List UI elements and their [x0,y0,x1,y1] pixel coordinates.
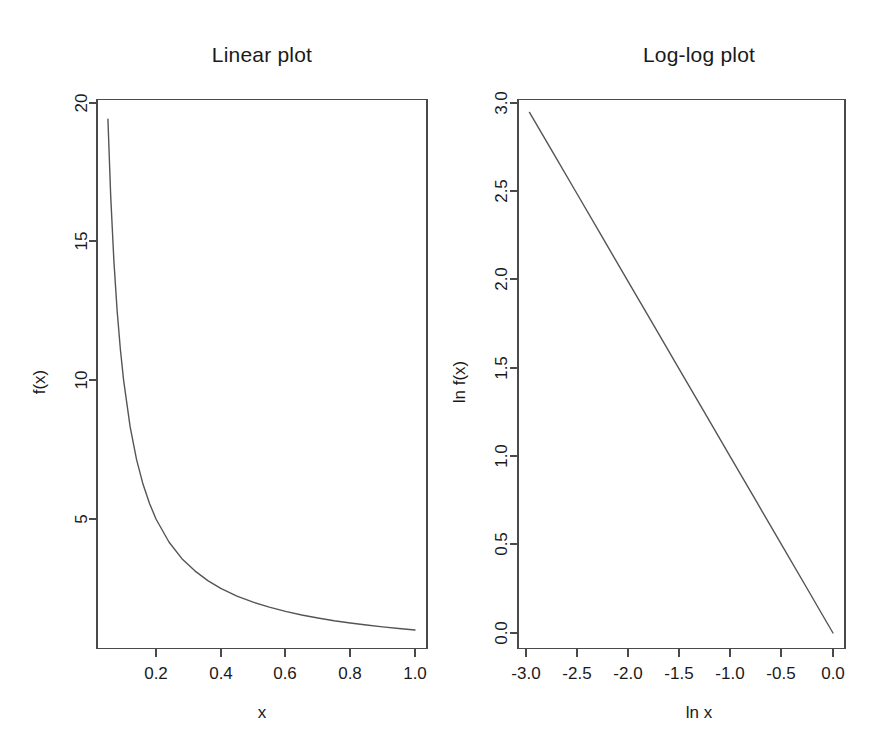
right-y-label-2-5: 2.5 [492,179,511,203]
right-x-label-0-0: 0.0 [821,664,845,683]
right-x-label-neg1-0: -1.0 [715,664,744,683]
right-x-axis-title: ln x [686,703,713,722]
figure-canvas: Linear plot 20 15 10 5 [0,0,887,749]
left-plot-title: Linear plot [212,43,312,66]
left-x-label-0-8: 0.8 [338,664,362,683]
right-y-label-3-0: 3.0 [492,91,511,115]
right-y-label-2-0: 2.0 [492,267,511,291]
left-x-label-0-6: 0.6 [273,664,297,683]
canvas-background [0,0,887,749]
right-x-label-neg2-5: -2.5 [562,664,591,683]
left-x-label-0-4: 0.4 [209,664,233,683]
right-y-label-1-0: 1.0 [492,444,511,468]
right-y-label-0-0: 0.0 [492,621,511,645]
right-x-label-neg0-5: -0.5 [766,664,795,683]
left-y-label-5: 5 [72,514,91,523]
right-plot-title: Log-log plot [643,43,755,66]
right-x-label-neg3-0: -3.0 [511,664,540,683]
left-y-label-15: 15 [72,232,91,251]
left-y-label-10: 10 [72,371,91,390]
right-x-label-neg1-5: -1.5 [664,664,693,683]
plot-svg: Linear plot 20 15 10 5 [0,0,887,749]
left-x-label-1-0: 1.0 [403,664,427,683]
right-x-tick-labels: -3.0 -2.5 -2.0 -1.5 -1.0 -0.5 0.0 [511,664,844,683]
right-y-label-1-5: 1.5 [492,356,511,380]
right-y-label-0-5: 0.5 [492,532,511,556]
left-x-label-0-2: 0.2 [144,664,168,683]
left-y-label-20: 20 [72,94,91,113]
right-x-label-neg2-0: -2.0 [613,664,642,683]
left-y-axis-title: f(x) [30,370,49,395]
left-x-axis-title: x [258,703,267,722]
right-y-axis-title: ln f(x) [450,361,469,404]
